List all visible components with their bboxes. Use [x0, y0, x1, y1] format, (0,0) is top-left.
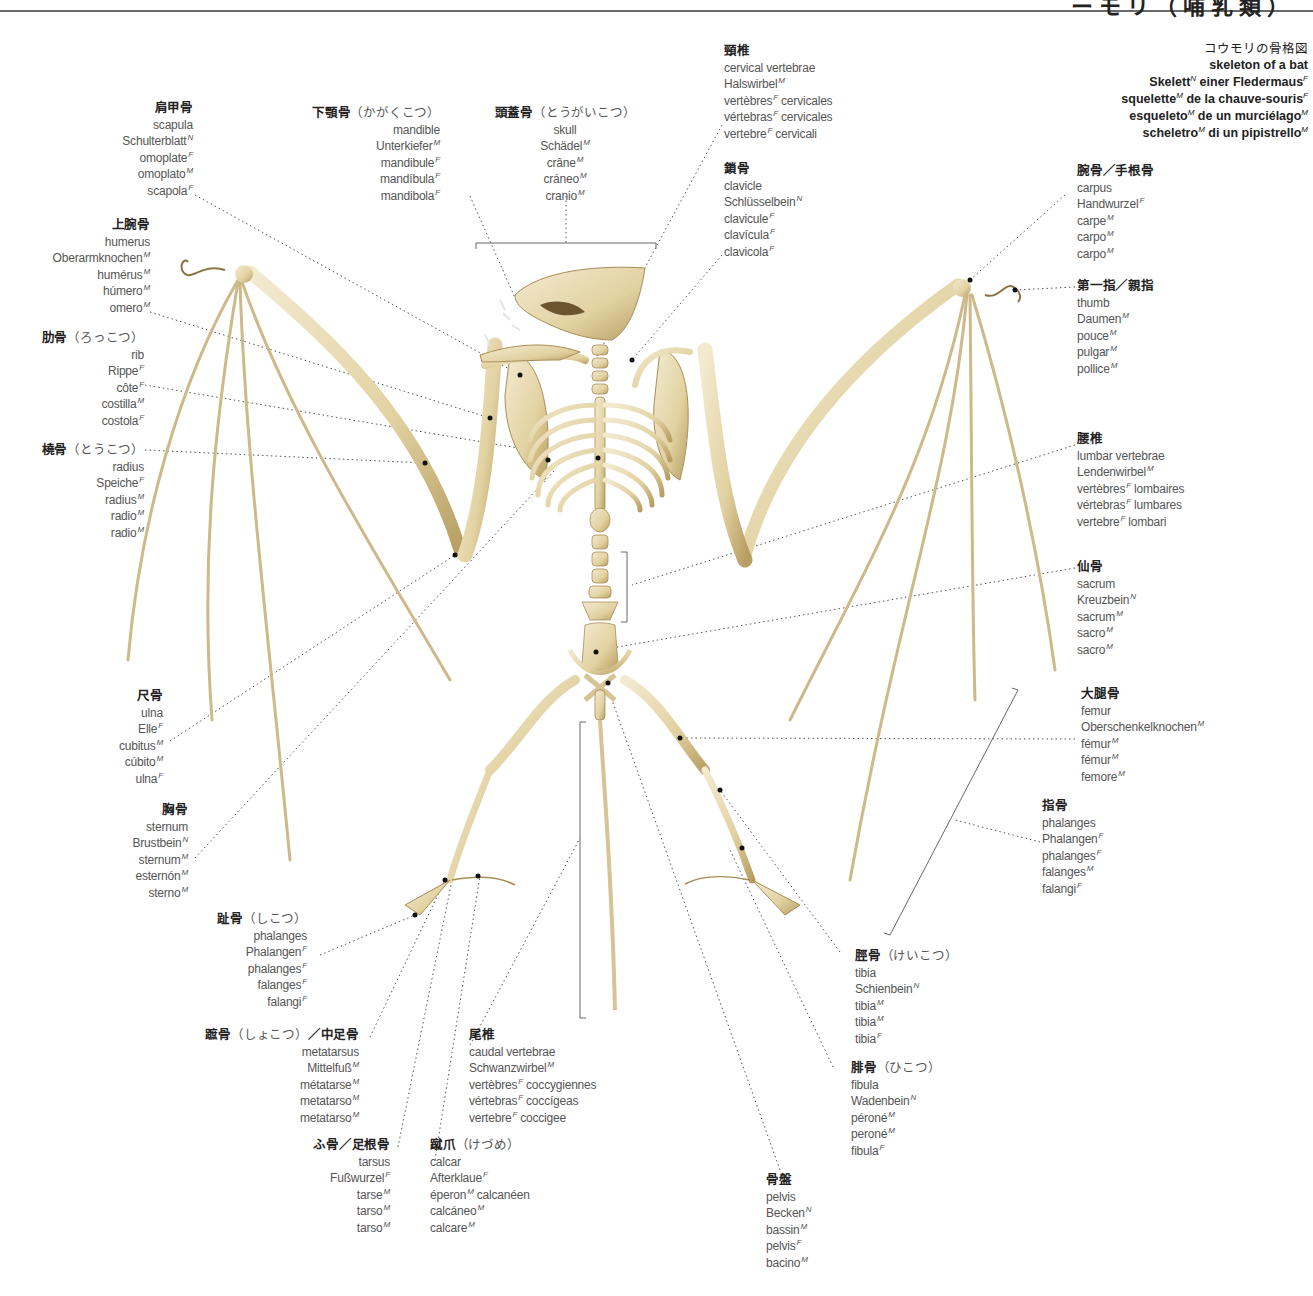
label-term: phalangesF	[217, 961, 307, 978]
label-term: caudal vertebrae	[469, 1044, 596, 1061]
label-heading-jp: 尾椎	[469, 1027, 596, 1044]
label-term: humérusM	[53, 267, 150, 284]
label-term: tarsus	[313, 1154, 390, 1171]
label-term: omeroM	[53, 300, 150, 317]
gender-marker: M	[384, 1203, 390, 1212]
label-term: PhalangenF	[217, 944, 307, 961]
label-term: cervical vertebrae	[724, 60, 832, 77]
label-term: WadenbeinN	[851, 1093, 941, 1110]
label-thumb: 第一指／親指thumbDaumenMpouceMpulgarMpolliceM	[1077, 278, 1154, 377]
label-term: phalanges	[1042, 815, 1103, 832]
gender-marker: M	[353, 1093, 359, 1102]
label-term: phalangesF	[1042, 848, 1103, 865]
label-femur: 大腿骨femurOberschenkelknochenMfémurMfémurM…	[1081, 686, 1204, 785]
gender-marker: M	[182, 868, 188, 877]
gender-marker: M	[877, 1014, 883, 1023]
label-term: tarseM	[313, 1187, 390, 1204]
label-term: humerus	[53, 234, 150, 251]
label-term: claviculeF	[724, 211, 802, 228]
label-term: falangiF	[217, 994, 307, 1011]
gender-marker: N	[913, 981, 919, 990]
label-term: crâneM	[470, 155, 660, 172]
label-term: lumbar vertebrae	[1077, 448, 1184, 465]
label-heading-jp: 仙骨	[1077, 559, 1136, 576]
label-term: tibiaM	[855, 998, 957, 1015]
label-scapula: 肩甲骨scapulaSchulterblattNomoplateFomoplat…	[122, 100, 193, 199]
label-heading-jp: 骨盤	[766, 1172, 811, 1189]
label-term: LendenwirbelM	[1077, 464, 1184, 481]
gender-marker: M	[353, 1060, 359, 1069]
label-heading-jp: 橈骨（とうこつ）	[42, 442, 144, 459]
gender-marker: M	[1118, 769, 1124, 778]
gender-marker: F	[1139, 196, 1144, 205]
gender-marker: M	[583, 138, 589, 147]
label-term: vértebrasF coccígeas	[469, 1093, 596, 1110]
gender-marker: F	[302, 961, 307, 970]
label-term: peronéM	[851, 1126, 941, 1143]
gender-marker: M	[801, 1222, 807, 1231]
label-term: vertèbresF cervicales	[724, 93, 832, 110]
label-heading-jp: 胸骨	[133, 802, 188, 819]
label-heading-jp: 趾骨（しこつ）	[217, 911, 307, 928]
label-term: KreuzbeinN	[1077, 592, 1136, 609]
gender-marker: F	[880, 1143, 885, 1152]
label-cervical-vertebrae: 頸椎cervical vertebraeHalswirbelMvertèbres…	[724, 43, 832, 142]
spine	[570, 345, 630, 720]
gender-marker: M	[138, 508, 144, 517]
label-term: tarsoM	[313, 1203, 390, 1220]
label-phalanges-hand: 指骨phalangesPhalangenFphalangesFfalangesM…	[1042, 798, 1103, 897]
gender-marker: M	[1106, 642, 1112, 651]
label-heading-jp: 蹠骨（しょこつ）／中足骨	[205, 1027, 359, 1044]
label-term: BrustbeinN	[133, 835, 188, 852]
label-heading-jp: ふ骨／足根骨	[313, 1137, 390, 1154]
label-term: DaumenM	[1077, 311, 1154, 328]
label-sternum: 胸骨sternumBrustbeinNsternumMesternónMster…	[133, 802, 188, 901]
label-term: tarsoM	[313, 1220, 390, 1237]
label-heading-jp: 第一指／親指	[1077, 278, 1154, 295]
label-term: pouceM	[1077, 328, 1154, 345]
label-term: fémurM	[1081, 752, 1204, 769]
label-term: métatarseM	[205, 1077, 359, 1094]
label-term: cubitusM	[119, 738, 163, 755]
label-heading-jp: 頸椎	[724, 43, 832, 60]
label-heading-jp: 肩甲骨	[122, 100, 193, 117]
gender-marker: M	[778, 76, 784, 85]
label-term: carpeM	[1077, 213, 1154, 230]
label-term: scapula	[122, 117, 193, 134]
label-term: mandibuleF	[312, 155, 440, 172]
gender-marker: M	[877, 998, 883, 1007]
label-term: HandwurzelF	[1077, 196, 1154, 213]
label-term: calcareM	[430, 1220, 530, 1237]
label-term: radius	[42, 459, 144, 476]
label-term: femoreM	[1081, 769, 1204, 786]
gender-marker: F	[188, 150, 193, 159]
label-term: ulna	[119, 705, 163, 722]
label-term: sacrumM	[1077, 609, 1136, 626]
label-term: tibiaM	[855, 1014, 957, 1031]
label-term: cranioM	[470, 188, 660, 205]
label-heading-jp: 頭蓋骨（とうがいこつ）	[470, 105, 660, 122]
gender-marker: F	[1077, 881, 1082, 890]
label-term: éperonM calcanéen	[430, 1187, 530, 1204]
label-metatarsus: 蹠骨（しょこつ）／中足骨metatarsusMittelfußMmétatars…	[205, 1027, 359, 1126]
label-carpus: 腕骨／手根骨carpusHandwurzelFcarpeMcarpoMcarpo…	[1077, 163, 1154, 262]
label-radius: 橈骨（とうこつ）radiusSpeicheFradiusMradioMradio…	[42, 442, 144, 541]
label-term: PhalangenF	[1042, 831, 1103, 848]
gender-marker: M	[1106, 625, 1112, 634]
gender-marker: M	[1087, 864, 1093, 873]
gender-marker: F	[158, 721, 163, 730]
gender-marker: F	[1097, 848, 1102, 857]
label-term: radioM	[42, 508, 144, 525]
label-term: vertèbresF lombaires	[1077, 481, 1184, 498]
title-de: SkelettN einer FledermausF	[1121, 74, 1308, 91]
label-term: côteF	[42, 380, 144, 397]
gender-marker: M	[888, 1110, 894, 1119]
label-term: BeckenN	[766, 1205, 811, 1222]
label-heading-jp: 腓骨（ひこつ）	[851, 1060, 941, 1077]
label-term: mandíbulaF	[312, 171, 440, 188]
gender-marker: M	[144, 267, 150, 276]
label-term: clavicle	[724, 178, 802, 195]
label-heading-jp: 上腕骨	[53, 217, 150, 234]
label-term: clavículaF	[724, 227, 802, 244]
gender-marker: M	[353, 1110, 359, 1119]
